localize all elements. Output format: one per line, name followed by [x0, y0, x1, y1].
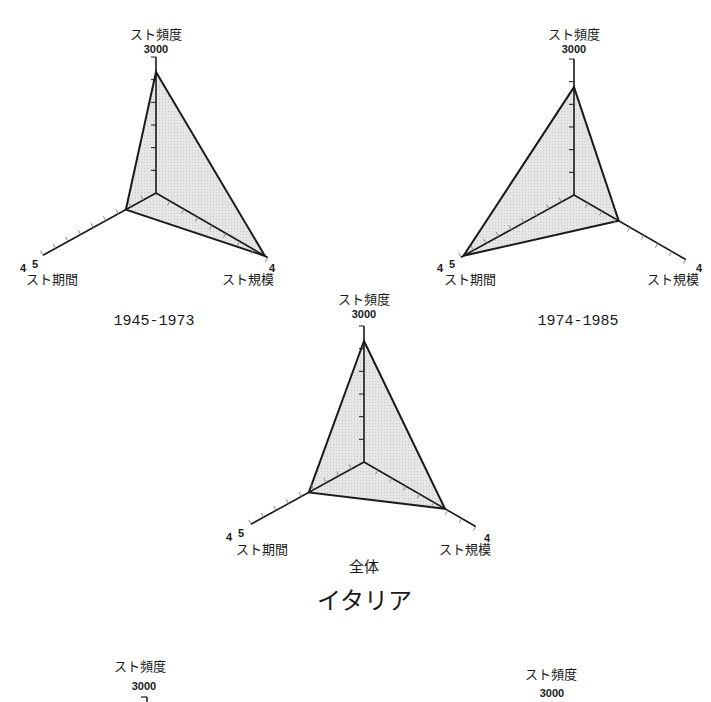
- axis-tick: [265, 258, 268, 262]
- axis-label-frequency: スト頻度: [130, 27, 182, 42]
- axis-tick: [261, 513, 263, 517]
- data-polygon: [126, 72, 265, 256]
- axis-label-frequency: スト頻度: [525, 667, 577, 682]
- axis-tick: [78, 230, 80, 234]
- axis-tick: [274, 506, 276, 510]
- axis-tick: [683, 260, 686, 264]
- axis-tick: [445, 510, 448, 514]
- axis-max-duration-b: 5: [32, 258, 38, 270]
- panel-caption: 1945-1973: [113, 313, 194, 330]
- axis-label-duration: スト期間: [444, 272, 496, 287]
- axis-tick: [641, 235, 644, 239]
- axis-max-frequency: 3000: [144, 43, 168, 55]
- axis-max-frequency: 3000: [540, 687, 564, 699]
- axis-label-duration: スト期間: [26, 272, 78, 287]
- axis-tick: [655, 243, 658, 247]
- axis-max-duration-a: 4: [226, 531, 233, 543]
- axis-max-frequency: 3000: [352, 308, 376, 320]
- axis-tick: [473, 527, 476, 531]
- axis-max-scale: 4: [696, 262, 703, 274]
- axis-tick: [286, 499, 288, 503]
- radar-panel-overall: [249, 326, 476, 531]
- axis-tick: [627, 227, 630, 231]
- axis-tick: [459, 518, 462, 522]
- axis-tick: [41, 251, 43, 255]
- axis-tick: [103, 216, 105, 220]
- axis-max-duration-b: 5: [238, 527, 244, 539]
- axis-max-duration-a: 4: [437, 262, 444, 274]
- axis-tick: [669, 251, 672, 255]
- axis-tick: [53, 244, 55, 248]
- axis-tick: [116, 209, 118, 213]
- axis-max-scale: 4: [269, 262, 276, 274]
- axis-label-frequency: スト頻度: [114, 659, 166, 674]
- axis-max-duration-a: 4: [20, 262, 27, 274]
- axis-max-frequency: 3000: [132, 680, 156, 692]
- axis-label-scale: スト規模: [222, 272, 274, 287]
- axis-tick: [91, 223, 93, 227]
- axis-label-frequency: スト頻度: [338, 292, 390, 307]
- axis-max-scale: 4: [484, 532, 491, 544]
- axis-tick: [66, 237, 68, 241]
- axis-tick: [249, 520, 251, 524]
- data-polygon: [464, 87, 619, 256]
- axis-line: [43, 193, 156, 255]
- axis-max-duration-b: 5: [449, 258, 455, 270]
- radar-figure: スト頻度 3000 スト規模 4 スト期間 4 5 1945-1973 スト頻度…: [0, 0, 711, 702]
- country-title: イタリア: [317, 587, 412, 615]
- axis-label-duration: スト期間: [236, 542, 288, 557]
- axis-tick: [459, 253, 461, 257]
- axis-label-scale: スト規模: [647, 272, 699, 287]
- axis-label-frequency: スト頻度: [548, 27, 600, 42]
- panel-caption: 全体: [349, 558, 379, 576]
- radar-panel-1974-1985: [459, 59, 686, 264]
- axis-max-frequency: 3000: [562, 43, 586, 55]
- data-polygon: [309, 341, 445, 509]
- axis-label-scale: スト規模: [439, 542, 491, 557]
- radar-panel-1945-1973: [41, 57, 268, 262]
- panel-caption: 1974-1985: [537, 313, 618, 330]
- axis-tick: [299, 492, 301, 496]
